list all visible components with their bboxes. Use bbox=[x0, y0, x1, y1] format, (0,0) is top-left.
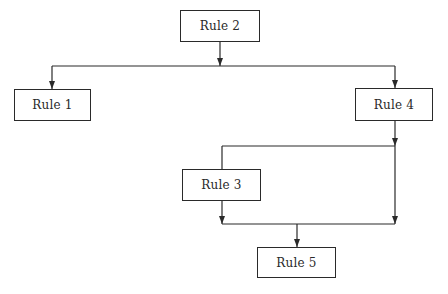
arrowhead-icon bbox=[392, 138, 398, 146]
node-rule-2: Rule 2 bbox=[180, 10, 260, 42]
arrowhead-icon bbox=[217, 58, 223, 66]
arrowhead-icon bbox=[219, 216, 225, 224]
arrowhead-icon bbox=[392, 80, 398, 88]
node-rule-1: Rule 1 bbox=[14, 89, 91, 121]
arrowhead-icon bbox=[49, 81, 55, 89]
node-label: Rule 5 bbox=[276, 256, 316, 270]
flowchart-diagram: Rule 2 Rule 1 Rule 4 Rule 3 Rule 5 bbox=[0, 0, 448, 294]
node-label: Rule 2 bbox=[200, 19, 240, 33]
node-rule-5: Rule 5 bbox=[257, 247, 336, 278]
node-label: Rule 3 bbox=[201, 178, 241, 192]
node-rule-4: Rule 4 bbox=[355, 88, 433, 121]
node-label: Rule 4 bbox=[374, 98, 414, 112]
connector-layer bbox=[0, 0, 448, 294]
node-label: Rule 1 bbox=[32, 98, 72, 112]
arrowhead-icon bbox=[294, 239, 300, 247]
node-rule-3: Rule 3 bbox=[182, 169, 261, 201]
arrowhead-icon bbox=[392, 216, 398, 224]
